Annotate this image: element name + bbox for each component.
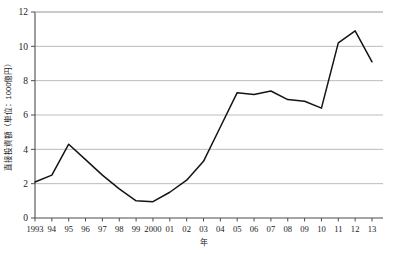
x-tick-label-07: 07	[267, 224, 276, 234]
x-tick-label-10: 10	[317, 224, 326, 234]
y-tick-label-4: 4	[23, 145, 28, 155]
x-tick-label-1993: 1993	[26, 224, 43, 234]
x-tick-label-12: 12	[351, 224, 360, 234]
x-tick-label-04: 04	[216, 224, 225, 234]
y-tick-label-12: 12	[19, 7, 29, 17]
x-tick-label-08: 08	[283, 224, 292, 234]
y-tick-label-6: 6	[23, 110, 28, 120]
x-tick-label-97: 97	[98, 224, 107, 234]
x-tick-label-2000: 2000	[144, 224, 161, 234]
y-tick-label-2: 2	[23, 179, 28, 189]
y-tick-label-8: 8	[23, 76, 28, 86]
data-line-series-0	[35, 31, 372, 202]
x-tick-labels-group: 1993949596979899200001020304050607080910…	[26, 218, 376, 234]
y-tick-label-10: 10	[19, 42, 29, 52]
x-tick-label-05: 05	[233, 224, 242, 234]
x-tick-label-98: 98	[115, 224, 124, 234]
x-tick-label-94: 94	[48, 224, 57, 234]
y-tick-label-0: 0	[23, 213, 28, 223]
chart-canvas: 0246810121993949596979899200001020304050…	[0, 0, 395, 254]
x-tick-label-06: 06	[250, 224, 259, 234]
x-tick-label-99: 99	[132, 224, 141, 234]
x-tick-label-01: 01	[166, 224, 175, 234]
x-tick-label-13: 13	[368, 224, 377, 234]
x-tick-label-03: 03	[199, 224, 208, 234]
line-chart: 0246810121993949596979899200001020304050…	[0, 0, 395, 254]
x-axis-title: 年	[200, 237, 208, 247]
gridlines-group	[35, 12, 383, 184]
x-tick-label-96: 96	[81, 224, 90, 234]
x-tick-label-02: 02	[182, 224, 191, 234]
x-tick-label-95: 95	[64, 224, 73, 234]
x-tick-label-09: 09	[300, 224, 309, 234]
y-tick-labels-group: 024681012	[19, 7, 36, 223]
y-axis-title: 直接投資額（単位：1000億円）	[3, 59, 13, 172]
x-tick-label-11: 11	[334, 224, 342, 234]
